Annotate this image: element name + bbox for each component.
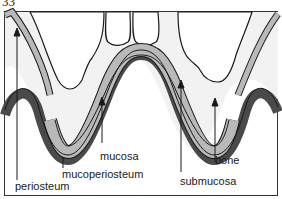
label-mucoperiosteum: mucoperiosteum bbox=[62, 168, 143, 180]
label-periosteum: periosteum bbox=[15, 180, 69, 192]
label-bone: bone bbox=[215, 154, 239, 166]
label-submucosa: submucosa bbox=[180, 175, 237, 187]
label-mucosa: mucosa bbox=[100, 150, 139, 162]
mucoperiosteum-diagram: mucosa bone mucoperiosteum submucosa per… bbox=[0, 0, 282, 199]
